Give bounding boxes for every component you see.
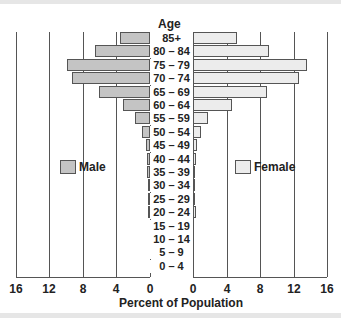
bar-male [99, 86, 150, 98]
bar-female [193, 99, 232, 111]
bar-female [193, 59, 307, 71]
age-group-label: 35 – 39 [150, 166, 193, 179]
tick-label-right: 12 [287, 282, 300, 296]
age-group-label: 20 – 24 [150, 206, 193, 219]
tick-label-right: 8 [257, 282, 264, 296]
tick-label-right: 0 [190, 282, 197, 296]
bar-female [193, 112, 208, 124]
tick-label-left: 12 [42, 282, 55, 296]
x-axis-line [16, 277, 150, 278]
age-group-label: 60 – 64 [150, 99, 193, 112]
age-axis-title: Age [158, 17, 181, 31]
age-group-label: 80 – 84 [150, 45, 193, 58]
bar-female [193, 32, 237, 44]
x-axis-line [193, 277, 327, 278]
tick-label-left: 0 [147, 282, 154, 296]
age-group-label: 30 – 34 [150, 179, 193, 192]
age-group-label: 50 – 54 [150, 126, 193, 139]
bar-male [142, 126, 150, 138]
bar-female [193, 86, 267, 98]
bar-female [193, 153, 196, 165]
legend-female-label: Female [254, 160, 295, 174]
age-group-label: 70 – 74 [150, 72, 193, 85]
bar-male [95, 45, 150, 57]
bar-male [67, 59, 150, 71]
tick-label-right: 16 [320, 282, 333, 296]
bar-male [120, 32, 150, 44]
bar-female [193, 72, 299, 84]
bar-female [193, 126, 201, 138]
tick-label-right: 4 [224, 282, 231, 296]
age-group-label: 0 – 4 [150, 260, 193, 273]
age-group-label: 65 – 69 [150, 86, 193, 99]
age-group-label: 10 – 14 [150, 233, 193, 246]
legend-male-label: Male [79, 160, 106, 174]
legend-female-swatch [235, 160, 251, 174]
legend-male-swatch [60, 160, 76, 174]
bottom-border [0, 313, 341, 318]
bar-female [193, 45, 269, 57]
x-axis-title: Percent of Population [119, 296, 243, 310]
gridline [49, 32, 50, 277]
age-group-label: 25 – 29 [150, 193, 193, 206]
bar-female [193, 193, 195, 205]
age-group-label: 5 – 9 [150, 246, 193, 259]
age-group-label: 85+ [150, 32, 193, 45]
bar-female [193, 179, 195, 191]
bar-female [193, 206, 196, 218]
age-group-label: 15 – 19 [150, 220, 193, 233]
tick-label-left: 16 [9, 282, 22, 296]
age-group-label: 45 – 49 [150, 139, 193, 152]
bar-male [123, 99, 150, 111]
gridline [16, 32, 17, 277]
bar-female [193, 139, 197, 151]
tick-label-left: 8 [80, 282, 87, 296]
age-group-label: 55 – 59 [150, 112, 193, 125]
bar-female [193, 166, 195, 178]
age-group-label: 75 – 79 [150, 59, 193, 72]
gridline [327, 32, 328, 277]
age-group-label: 40 – 44 [150, 153, 193, 166]
tick-label-left: 4 [113, 282, 120, 296]
bar-male [135, 112, 150, 124]
top-border [0, 0, 341, 4]
bar-male [72, 72, 150, 84]
